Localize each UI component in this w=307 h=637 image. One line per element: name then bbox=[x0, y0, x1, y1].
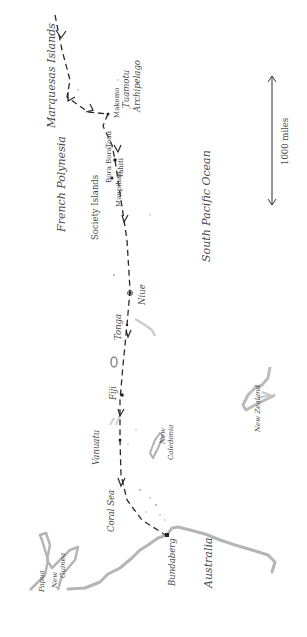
label-vanuatu: Vanuatu bbox=[91, 430, 101, 465]
label-coral-sea: Coral Sea bbox=[106, 490, 116, 532]
label-new-caledonia-1: New bbox=[159, 428, 167, 444]
scale-bar-label: 1000 miles bbox=[280, 118, 290, 165]
label-society-islands: Society Islands bbox=[90, 175, 100, 240]
label-toau: Toau bbox=[105, 131, 113, 148]
label-archipelago: Archipelago bbox=[132, 60, 142, 112]
label-png-1: Papua bbox=[38, 570, 46, 592]
label-bora-bora: Bora Bora bbox=[105, 147, 113, 183]
label-australia: Australia bbox=[202, 537, 215, 588]
label-makemo: Makemo bbox=[113, 87, 121, 118]
label-fiji: Fiji bbox=[108, 386, 118, 400]
sailing-route-map: 1000 miles Marquesas Islands Makemo Tuam… bbox=[0, 0, 307, 637]
label-french-polynesia: French Polynesia bbox=[55, 136, 68, 232]
label-niue: Niue bbox=[137, 284, 147, 305]
label-png-2: New bbox=[51, 572, 59, 588]
label-tuamotu: Tuamotu bbox=[121, 70, 131, 108]
label-marquesas: Marquesas Islands bbox=[45, 23, 58, 128]
label-png-3: Guinea bbox=[59, 553, 67, 578]
label-maupihaa: Maupihaa bbox=[115, 172, 123, 207]
label-new-caledonia-2: Caledonia bbox=[167, 424, 175, 460]
label-bundaberg: Bundaberg bbox=[167, 538, 177, 586]
label-south-pacific-ocean: South Pacific Ocean bbox=[200, 150, 213, 262]
label-tonga: Tonga bbox=[113, 314, 123, 340]
label-new-zealand: New Zealand bbox=[254, 385, 262, 432]
